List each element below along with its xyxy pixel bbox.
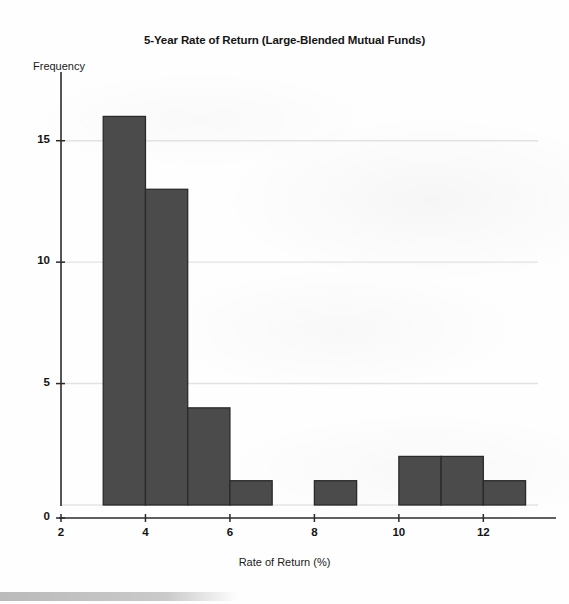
y-tick-label: 5: [16, 376, 50, 388]
y-tick-label: 10: [16, 254, 50, 266]
histogram-bar: [188, 408, 230, 505]
x-tick-label: 10: [384, 526, 414, 538]
x-tick-label: 6: [215, 526, 245, 538]
histogram-bar: [483, 481, 525, 505]
histogram-bar: [314, 481, 356, 505]
x-tick-label: 12: [468, 526, 498, 538]
histogram-plot: [0, 0, 569, 604]
bars-group: [103, 116, 525, 505]
histogram-bar: [441, 456, 483, 505]
scanned-page: 5-Year Rate of Return (Large-Blended Mut…: [0, 0, 569, 604]
scan-edge-smudge: [0, 592, 238, 601]
histogram-bar: [230, 481, 272, 505]
x-tick-label: 4: [130, 526, 160, 538]
histogram-bar: [145, 189, 187, 505]
x-tick-label: 2: [46, 526, 76, 538]
histogram-bar: [103, 116, 145, 505]
y-tick-label: 15: [16, 133, 50, 145]
x-tick-label: 8: [299, 526, 329, 538]
y-tick-label: 0: [16, 510, 50, 522]
histogram-bar: [399, 456, 441, 505]
